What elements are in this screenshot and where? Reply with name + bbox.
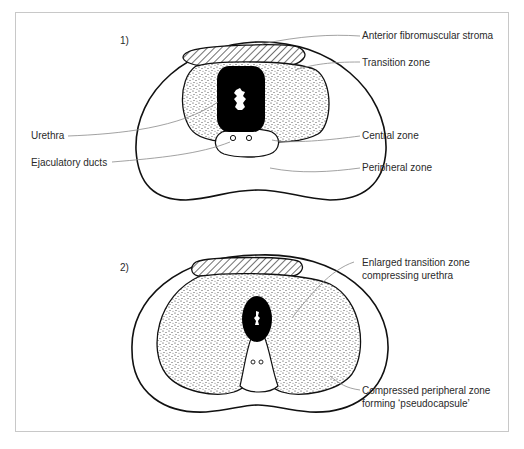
- central-zone: [215, 129, 278, 157]
- panel-1-label: 1): [120, 35, 129, 46]
- ejaculatory-duct-right-2: [259, 360, 263, 364]
- panel-2-label: 2): [120, 262, 129, 273]
- ejaculatory-duct-right: [246, 135, 251, 140]
- panel-1-normal-prostate: [68, 35, 386, 200]
- label-urethra: Urethra: [31, 129, 64, 142]
- label-enlarged-transition-zone-line2: compressing urethra: [362, 269, 470, 282]
- prostate-zones-diagram: [0, 0, 524, 449]
- label-compressed-peripheral-zone-line1: Compressed peripheral zone: [362, 384, 490, 397]
- ejaculatory-duct-left: [230, 135, 235, 140]
- label-transition-zone: Transition zone: [362, 56, 430, 69]
- label-compressed-peripheral-zone: Compressed peripheral zone forming ‘pseu…: [362, 384, 490, 410]
- label-central-zone: Central zone: [362, 129, 419, 142]
- label-enlarged-transition-zone-line1: Enlarged transition zone: [362, 256, 470, 269]
- label-peripheral-zone: Peripheral zone: [362, 161, 432, 174]
- panel-2-bph-prostate: [132, 255, 388, 412]
- label-ejaculatory-ducts: Ejaculatory ducts: [31, 156, 107, 169]
- label-enlarged-transition-zone: Enlarged transition zone compressing ure…: [362, 256, 470, 282]
- label-compressed-peripheral-zone-line2: forming ‘pseudocapsule’: [362, 397, 490, 410]
- ejaculatory-duct-left-2: [251, 360, 255, 364]
- label-anterior-fibromuscular-stroma: Anterior fibromuscular stroma: [362, 29, 493, 42]
